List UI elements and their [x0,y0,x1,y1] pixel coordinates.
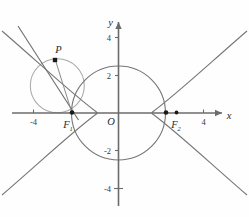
x-axis-arrow-icon [215,110,222,116]
y-axis-arrow-icon [115,22,121,29]
point-marker-F1 [70,110,75,115]
x-axis-label: x [226,110,232,121]
coordinate-plane-svg: -4 4 4 2 -2 -4 x y O P F1 F2 [0,0,249,217]
math-figure-canvas: -4 4 4 2 -2 -4 x y O P F1 F2 [0,0,249,217]
origin-label: O [107,116,115,127]
y-axis-label: y [107,17,113,28]
x-tick-label-pos4: 4 [201,117,206,127]
x-tick-label-neg4: -4 [30,117,38,127]
point-marker-P [53,58,57,62]
point-marker-F2 [164,110,169,115]
chord-P-F1 [56,61,73,114]
y-tick-label-pos2: 2 [107,71,111,81]
point-label-F1-subscript: 1 [70,125,73,132]
y-tick-label-neg4: -4 [104,184,112,194]
point-label-F2-subscript: 2 [178,125,182,132]
point-label-P: P [54,44,62,55]
point-label-F1: F1 [62,119,73,132]
point-label-F2: F2 [170,119,181,132]
point-marker-F2-outer [175,111,179,115]
y-tick-label-neg2: -2 [104,146,111,156]
y-tick-label-pos4: 4 [107,33,112,43]
